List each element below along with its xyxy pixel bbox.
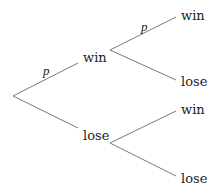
edge-probability-label-first: p (42, 63, 50, 78)
edge-lose-to-win (110, 111, 176, 143)
edge-probability-label-second: p (140, 19, 148, 34)
node-win-lose: lose (181, 74, 208, 89)
edge-lose-to-lose (110, 143, 176, 176)
node-win-level1: win (83, 50, 107, 65)
node-win-win: win (181, 8, 205, 23)
node-lose-level1: lose (83, 128, 110, 143)
edge-root-to-lose (13, 96, 78, 128)
probability-tree-diagram: p p win lose win lose win lose (0, 0, 212, 192)
edge-win-to-lose (110, 50, 176, 80)
node-lose-lose: lose (181, 171, 208, 186)
node-lose-win: win (181, 102, 205, 117)
